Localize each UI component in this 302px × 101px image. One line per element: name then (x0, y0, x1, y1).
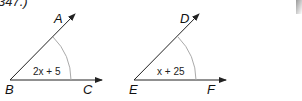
cutoff-reference-text: 347.) (0, 0, 28, 9)
point-label-a: A (53, 11, 63, 26)
angle-expression-e: x + 25 (157, 66, 185, 77)
page-edge-shadow (296, 0, 302, 14)
point-label-d: D (180, 11, 189, 26)
point-label-e: E (129, 82, 138, 97)
angle-expression-b: 2x + 5 (33, 66, 61, 77)
angle-def: x + 25 D E F (129, 11, 226, 97)
point-label-f: F (207, 82, 216, 97)
angle-abc: 2x + 5 A B C (5, 11, 102, 97)
angle-diagram: 347.) 2x + 5 A B C x + 25 D E F (0, 0, 302, 101)
point-label-b: B (5, 82, 14, 97)
point-label-c: C (83, 82, 93, 97)
